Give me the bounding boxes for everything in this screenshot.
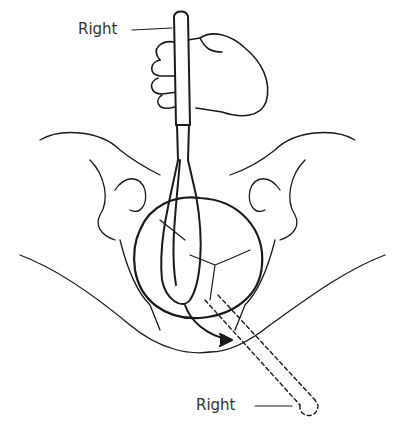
pelvic-instrument-illustration xyxy=(0,0,395,435)
instrument xyxy=(161,12,200,304)
label-top: Right xyxy=(78,20,118,38)
illustration: Right Right xyxy=(0,0,395,435)
pelvis xyxy=(20,133,385,353)
arrow xyxy=(185,305,232,346)
label-bottom: Right xyxy=(196,396,236,414)
hand xyxy=(152,34,268,116)
